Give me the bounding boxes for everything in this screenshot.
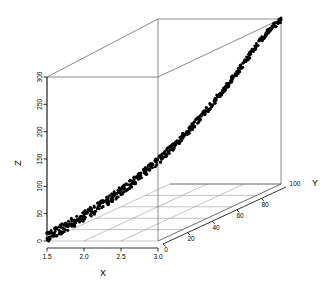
data-point (46, 238, 49, 241)
data-point (119, 188, 122, 191)
data-point (87, 208, 90, 211)
y-axis: 0 20 40 60 80 100 Y (163, 178, 318, 253)
x-tick-label: 2.0 (79, 253, 88, 260)
data-point (90, 207, 93, 210)
data-point (64, 222, 67, 225)
data-point (113, 190, 116, 193)
data-point (102, 205, 105, 208)
data-point (239, 64, 242, 67)
data-point (144, 173, 147, 176)
data-point (63, 230, 66, 233)
data-point (238, 70, 241, 73)
scatter3d-plot: 0 50 100 150 200 250 300 Z 1.5 2.0 2.5 3… (0, 0, 331, 290)
data-point (78, 216, 81, 219)
data-point (208, 108, 211, 111)
data-point (151, 166, 154, 169)
data-point (115, 196, 118, 199)
data-point (98, 207, 101, 210)
data-point (129, 179, 132, 182)
plot-box (47, 19, 281, 241)
data-point (216, 94, 219, 97)
x-tick-label: 1.5 (42, 253, 51, 260)
data-point (139, 174, 142, 177)
data-point (183, 134, 186, 137)
plot-canvas: 0 50 100 150 200 250 300 Z 1.5 2.0 2.5 3… (0, 0, 331, 290)
data-point (201, 113, 204, 116)
data-point (50, 230, 53, 233)
data-point (160, 158, 163, 161)
data-point (84, 216, 87, 219)
data-point (70, 220, 73, 223)
data-point (102, 200, 105, 203)
data-point (78, 221, 81, 224)
z-tick-label: 100 (36, 180, 43, 191)
data-point (55, 226, 58, 229)
z-axis-title: Z (13, 160, 23, 166)
data-point (211, 104, 214, 107)
data-point (70, 217, 73, 220)
z-tick-label: 200 (36, 126, 43, 137)
data-point (271, 26, 274, 29)
data-point (214, 99, 217, 102)
data-point (93, 211, 96, 214)
data-point (151, 163, 154, 166)
data-point (55, 234, 58, 237)
x-axis-title: X (100, 268, 106, 278)
data-point (125, 182, 128, 185)
z-tick-label: 50 (36, 210, 43, 218)
data-point (223, 88, 226, 91)
data-point-cloud (46, 16, 283, 242)
y-tick-label: 80 (261, 201, 269, 208)
y-tick-label: 40 (212, 224, 220, 231)
y-tick-label: 20 (187, 235, 195, 242)
data-point (235, 73, 238, 76)
data-point (93, 206, 96, 209)
y-tick-label: 0 (164, 246, 168, 253)
data-point (240, 67, 243, 70)
data-point (148, 163, 151, 166)
data-point (253, 45, 256, 48)
z-tick-label: 0 (36, 239, 43, 243)
y-tick-label: 100 (290, 180, 301, 187)
z-axis: 0 50 100 150 200 250 300 Z (13, 71, 47, 243)
data-point (108, 200, 111, 203)
data-point (59, 223, 62, 226)
data-point (274, 25, 277, 28)
data-point (65, 225, 68, 228)
data-point (227, 84, 230, 87)
data-point (254, 47, 257, 50)
data-point (262, 36, 265, 39)
data-point (52, 235, 55, 238)
z-tick-label: 150 (36, 153, 43, 164)
data-point (170, 144, 173, 147)
x-tick-label: 2.5 (116, 253, 125, 260)
data-point (256, 44, 259, 47)
data-point (279, 21, 282, 24)
data-point (85, 212, 88, 215)
data-point (133, 181, 136, 184)
data-point (203, 109, 206, 112)
data-point (214, 102, 217, 105)
data-point (244, 58, 247, 61)
data-point (122, 185, 125, 188)
data-point (164, 153, 167, 156)
y-tick-label: 60 (236, 212, 244, 219)
data-point (198, 119, 201, 122)
data-point (133, 176, 136, 179)
data-point (128, 186, 131, 189)
z-tick-label: 250 (36, 98, 43, 109)
data-point (66, 229, 69, 232)
data-point (193, 120, 196, 123)
data-point (67, 220, 70, 223)
data-point (82, 220, 85, 223)
data-point (204, 112, 207, 115)
data-point (145, 167, 148, 170)
data-point (159, 160, 162, 163)
x-tick-label: 3.0 (153, 253, 162, 260)
data-point (155, 161, 158, 164)
data-point (75, 215, 78, 218)
data-point (113, 194, 116, 197)
y-axis-title: Y (312, 178, 318, 188)
z-tick-label: 300 (36, 71, 43, 82)
x-axis: 1.5 2.0 2.5 3.0 X (42, 248, 162, 278)
